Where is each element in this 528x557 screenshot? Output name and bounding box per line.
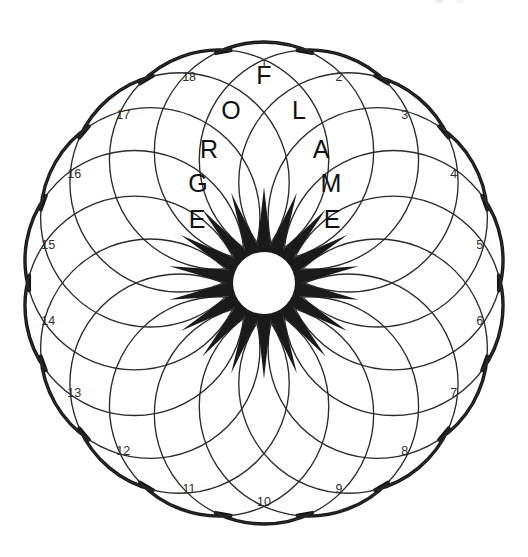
grid-letter: A (313, 135, 330, 163)
grid-letter: O (221, 96, 240, 124)
rosette-diagram: FORGELAME 123456789101112131415161718 (0, 0, 528, 557)
petal-number: 17 (116, 108, 130, 122)
puzzle-figure: FORGELAME 123456789101112131415161718 (0, 0, 528, 557)
grid-letter: R (200, 135, 218, 163)
petal-number: 7 (450, 386, 457, 400)
grid-letter: M (321, 169, 342, 197)
petal-number: 9 (335, 482, 342, 496)
petal-number: 6 (476, 314, 483, 328)
petal-number: 5 (476, 238, 483, 252)
grid-letter: L (292, 96, 306, 124)
grid-letter: E (189, 205, 206, 233)
petal-number: 15 (41, 238, 55, 252)
scan-artifact (434, 0, 443, 3)
petal-number: 11 (183, 482, 196, 496)
grid-letter: E (324, 205, 341, 233)
petal-number: 1 (261, 57, 268, 71)
petal-number: 2 (335, 70, 342, 84)
petal-number: 18 (182, 70, 196, 84)
petal-number: 12 (116, 444, 130, 458)
petal-number: 14 (41, 314, 55, 328)
petal-number: 10 (257, 495, 271, 509)
petal-number: 8 (401, 444, 408, 458)
petal-number: 13 (67, 386, 81, 400)
petal-number: 3 (401, 108, 408, 122)
petal-number: 16 (67, 167, 81, 181)
hub-circle (233, 252, 295, 314)
grid-letter: G (188, 169, 207, 197)
scan-artifact (456, 0, 463, 3)
petal-number: 4 (450, 167, 457, 181)
